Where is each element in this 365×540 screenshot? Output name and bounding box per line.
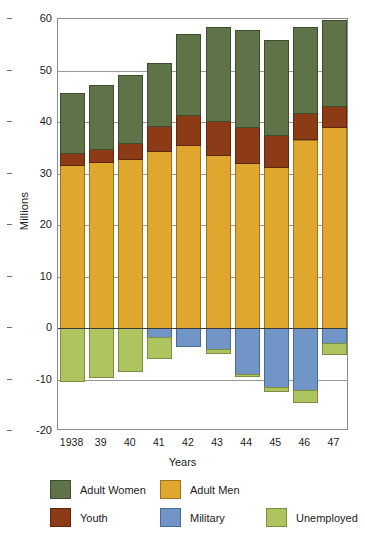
bar-segment-women[interactable] [293,27,318,115]
bar-segment-women[interactable] [176,34,201,116]
y-tick-label-20: 20 [12,218,52,230]
y-tick-mark [7,70,12,71]
bar-segment-women[interactable] [322,20,347,106]
bar-segment-unemp[interactable] [206,349,231,354]
bar-group[interactable] [147,19,172,429]
y-tick-mark [7,18,12,19]
legend-label-unemp: Unemployed [296,512,358,524]
legend-label-military: Military [190,512,225,524]
bar-segment-youth[interactable] [322,106,347,129]
bar-segment-men[interactable] [118,159,143,329]
bar-segment-youth[interactable] [89,149,114,163]
y-tick-label-50: 50 [12,64,52,76]
bar-segment-military[interactable] [176,328,201,347]
bar-segment-youth[interactable] [264,135,289,168]
y-tick-label-40: 40 [12,115,52,127]
bar-segment-unemp[interactable] [322,343,347,355]
x-tick-label-40: 40 [124,436,136,448]
bar-segment-military[interactable] [293,328,318,391]
bar-segment-men[interactable] [176,145,201,329]
bar-segment-unemp[interactable] [293,390,318,403]
bar-segment-women[interactable] [89,85,114,149]
bar-group[interactable] [293,19,318,429]
bar-segment-military[interactable] [206,328,231,350]
bar-group[interactable] [60,19,85,429]
bar-segment-men[interactable] [60,165,85,329]
bar-segment-youth[interactable] [147,126,172,153]
y-tick-label--10: -10 [12,373,52,385]
bar-segment-men[interactable] [235,163,260,329]
legend-item-youth[interactable]: Youth [50,508,108,527]
legend-item-women[interactable]: Adult Women [50,480,146,499]
y-tick-label-30: 30 [12,167,52,179]
bar-segment-unemp[interactable] [60,328,85,382]
bar-group[interactable] [264,19,289,429]
x-tick-label-45: 45 [269,436,281,448]
bar-segment-military[interactable] [264,328,289,388]
bar-segment-men[interactable] [206,155,231,329]
bar-segment-youth[interactable] [293,113,318,140]
legend-swatch-military [160,508,181,527]
bar-segment-youth[interactable] [235,127,260,164]
x-axis-label: Years [0,456,365,468]
legend-item-men[interactable]: Adult Men [160,480,240,499]
y-tick-mark [7,276,12,277]
legend-swatch-women [50,480,71,499]
legend-swatch-men [160,480,181,499]
bar-segment-youth[interactable] [176,115,201,146]
bar-segment-military[interactable] [235,328,260,375]
x-tick-label-44: 44 [240,436,252,448]
legend-label-youth: Youth [80,512,108,524]
bar-segment-military[interactable] [322,328,347,344]
bar-group[interactable] [235,19,260,429]
bar-segment-unemp[interactable] [235,374,260,377]
bar-segment-men[interactable] [322,127,347,329]
y-axis-label: Millions [18,171,30,251]
x-tick-label-46: 46 [299,436,311,448]
bar-segment-women[interactable] [206,27,231,122]
bar-segment-unemp[interactable] [147,337,172,359]
y-tick-mark [7,121,12,122]
bar-group[interactable] [322,19,347,429]
y-tick-label-0: 0 [12,321,52,333]
y-tick-mark [7,430,12,431]
chart-legend: Adult WomenAdult MenYouthMilitaryUnemplo… [0,476,365,540]
bar-segment-men[interactable] [147,151,172,329]
bar-group[interactable] [176,19,201,429]
legend-item-military[interactable]: Military [160,508,225,527]
bar-segment-men[interactable] [264,167,289,329]
x-tick-label-1938: 1938 [60,436,83,448]
chart-figure: Millions Years 6050403020100-10-20 19383… [0,0,365,540]
y-tick-mark [7,173,12,174]
x-tick-label-39: 39 [95,436,107,448]
bar-segment-women[interactable] [264,40,289,136]
bar-segment-men[interactable] [293,140,318,329]
bar-group[interactable] [118,19,143,429]
bar-segment-women[interactable] [60,93,85,154]
bar-segment-unemp[interactable] [264,387,289,392]
bar-segment-men[interactable] [89,162,114,329]
bar-segment-unemp[interactable] [89,328,114,378]
y-tick-mark [7,379,12,380]
bar-segment-youth[interactable] [118,143,143,159]
bar-group[interactable] [206,19,231,429]
plot-area [57,18,348,430]
x-tick-label-43: 43 [211,436,223,448]
bar-segment-women[interactable] [235,30,260,128]
x-tick-label-42: 42 [182,436,194,448]
y-tick-mark [7,224,12,225]
y-tick-label-10: 10 [12,270,52,282]
y-tick-label--20: -20 [12,424,52,436]
legend-swatch-youth [50,508,71,527]
bar-segment-youth[interactable] [206,121,231,156]
bar-group[interactable] [89,19,114,429]
bar-segment-youth[interactable] [60,153,85,166]
zero-line [58,328,347,329]
y-tick-label-60: 60 [12,12,52,24]
bar-segment-women[interactable] [118,75,143,144]
bar-segment-women[interactable] [147,63,172,127]
x-tick-label-47: 47 [328,436,340,448]
legend-swatch-unemp [266,508,287,527]
bar-segment-unemp[interactable] [118,328,143,372]
legend-item-unemp[interactable]: Unemployed [266,508,358,527]
